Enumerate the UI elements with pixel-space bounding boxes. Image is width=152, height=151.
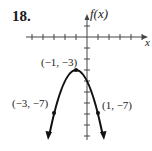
parabola-curve: [50, 70, 103, 134]
y-axis-label: f(x): [90, 6, 108, 22]
point-right: [96, 111, 100, 115]
point-vertex: [74, 68, 78, 72]
right-point-label: (1, −7): [102, 99, 132, 111]
arrow-left-icon: [46, 131, 53, 140]
arrow-right-icon: [100, 131, 107, 140]
vertex-label: (−1, −3): [41, 56, 77, 68]
x-axis-label: x: [145, 36, 150, 48]
parabola-graph: [0, 0, 152, 151]
point-left: [52, 111, 56, 115]
left-point-label: (−3, −7): [12, 97, 48, 109]
